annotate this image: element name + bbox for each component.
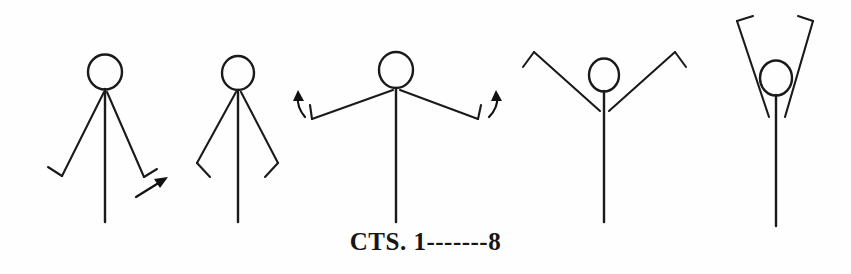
head-figure-2 xyxy=(222,56,254,90)
left-hand-figure-5 xyxy=(737,16,753,21)
arrow-head-figure-3-left xyxy=(293,90,304,101)
figure-3 xyxy=(310,52,481,222)
left-arm-figure-2 xyxy=(197,92,236,163)
figure-4 xyxy=(523,52,686,222)
stick-figure-sequence-sheet: CTS. 1-------8 xyxy=(0,0,851,274)
arrow-up-left-hand-figure3 xyxy=(293,90,305,117)
right-hand-figure-4 xyxy=(675,52,686,67)
figure-1 xyxy=(48,55,157,223)
head-figure-4 xyxy=(589,59,619,92)
left-hand-figure-2 xyxy=(197,163,210,177)
left-arm-figure-5 xyxy=(737,21,769,117)
arrow-head-figure-1 xyxy=(154,177,168,188)
right-hand-figure-2 xyxy=(265,163,278,177)
arrow-up-right-hand-figure3 xyxy=(489,90,502,117)
figure-2 xyxy=(197,56,278,222)
head-figure-1 xyxy=(88,55,122,90)
left-hand-figure-1 xyxy=(48,167,62,176)
head-figure-3 xyxy=(379,52,413,88)
figure-5 xyxy=(737,16,813,226)
counts-caption: CTS. 1-------8 xyxy=(350,228,501,256)
right-hand-figure-1 xyxy=(144,169,157,177)
right-arm-figure-2 xyxy=(241,92,278,163)
right-hand-figure-5 xyxy=(798,16,813,21)
right-arm-figure-1 xyxy=(107,92,144,177)
caption-row: CTS. 1-------8 xyxy=(0,228,851,256)
left-arm-figure-1 xyxy=(62,92,104,176)
head-figure-5 xyxy=(760,61,792,96)
arrow-head-figure-3-right xyxy=(491,90,502,101)
arrow-up-right-figure1 xyxy=(136,177,168,197)
right-arm-figure-3 xyxy=(400,90,478,119)
right-hand-figure-3 xyxy=(478,105,481,119)
left-hand-figure-3 xyxy=(310,105,312,119)
left-arm-figure-3 xyxy=(312,90,393,119)
left-hand-figure-4 xyxy=(523,52,534,67)
